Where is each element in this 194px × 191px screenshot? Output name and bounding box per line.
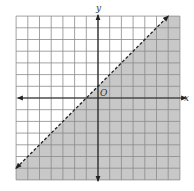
x-axis-label: x — [184, 93, 189, 103]
origin-label: O — [100, 88, 108, 98]
coordinate-plane: x y O — [0, 0, 194, 191]
y-axis-label: y — [95, 3, 102, 13]
